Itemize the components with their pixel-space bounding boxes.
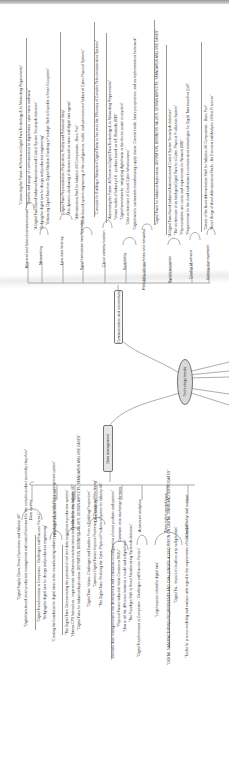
- leaf-citation[interactable]: "Digital Twin: Values, Challenges and En…: [88, 527, 92, 607]
- leaf-citation[interactable]: "Requirements for the cloud and network …: [187, 60, 191, 235]
- leaf-citation[interactable]: "Digital Transformation in Companies - C…: [138, 547, 142, 657]
- leaf-connector: [201, 42, 202, 232]
- leaf-citation[interactable]: "A Digital Twin Based Industrial Automat…: [35, 80, 39, 230]
- branch-data-management[interactable]: Data management: [103, 425, 113, 472]
- leaf-citation[interactable]: "Automating the Future: A Review on Digi…: [109, 50, 113, 220]
- category-quality-of-service[interactable]: Quality of service: [189, 244, 193, 279]
- leaf-citation[interactable]: "DIGITAL MANUFACTURING REQUIREMENTS AND …: [168, 555, 172, 665]
- category-data-quality[interactable]: Data quality: [29, 495, 33, 520]
- leaf-citation[interactable]: "Physical Twin to Industrial Value Creat…: [118, 552, 122, 627]
- leaf-connector: [166, 45, 167, 235]
- leaf-citation[interactable]: "Digital Twins for Industrial Applicatio…: [156, 45, 160, 225]
- leaf-citation[interactable]: "The Paradigm Shift in Smart Manufacturi…: [130, 552, 134, 622]
- category-reliability[interactable]: Reliability of machines and networks: [142, 235, 146, 290]
- leaf-citation[interactable]: "Connecting the Future: A Review on Digi…: [20, 40, 24, 205]
- leaf-citation[interactable]: "Bridging the digital turn for design an…: [41, 85, 45, 230]
- leaf-citation[interactable]: "Benefits and usage of communication for…: [28, 60, 32, 205]
- category-low-data-latency[interactable]: Low data latency: [60, 225, 64, 265]
- category-scalability[interactable]: Scalability: [123, 250, 127, 270]
- leaf-citation[interactable]: "Digital Transformation in Companies - C…: [38, 522, 42, 622]
- leaf-citation[interactable]: "Digital Tw... Impact of cloud security …: [175, 548, 179, 603]
- leaf-connector: [35, 535, 36, 630]
- category-identity-management[interactable]: Identity management: [206, 240, 210, 280]
- leaf-connector: [106, 33, 107, 223]
- branch-label: Data management: [106, 434, 110, 464]
- leaf-citation[interactable]: "Digital twin-based smart production man…: [25, 522, 29, 627]
- branch-communication-connectivity[interactable]: Communication and connectivity: [114, 290, 123, 344]
- leaf-citation[interactable]: "Representative use cases and requiremen…: [181, 85, 185, 235]
- leaf-citation[interactable]: "Digital Supply Chain, Smart Operations …: [18, 520, 22, 600]
- category-common-data-exchange[interactable]: Common data exchange formats: [118, 497, 122, 542]
- leaf-citation[interactable]: "Digital twin for sustainable manufactur…: [134, 55, 138, 230]
- leaf-citation[interactable]: "A bi-dynamic shadowing of distance-base…: [68, 90, 72, 215]
- leaf-citation[interactable]: "Details of the Asset Administration She…: [205, 70, 209, 230]
- root-node[interactable]: Technology trends: [177, 359, 193, 405]
- leaf-citation[interactable]: "Model-based system engineering of the c…: [82, 40, 86, 225]
- leaf-citation[interactable]: "Virtual models of Industry 4.0 - produc…: [115, 100, 119, 220]
- leaf-citation[interactable]: "Human-CPS Interaction - requirements an…: [72, 537, 76, 637]
- leaf-citation[interactable]: "Administration Shell for Industrie 4.0 …: [76, 60, 80, 220]
- leaf-citation[interactable]: "Digital Twin Representation, Replicatio…: [62, 105, 66, 215]
- leaf-citation[interactable]: "Dynamic Digital Twin to Improve Resilie…: [94, 527, 98, 587]
- leaf-citation[interactable]: "Asset Usage of Asset Administration She…: [211, 75, 215, 230]
- leaf-citation[interactable]: "Digital Twins for Industrial Applicatio…: [78, 535, 82, 630]
- leaf-citation[interactable]: "Semantic data management for the develo…: [112, 550, 116, 660]
- leaf-citation[interactable]: "The architecture of an Intelligent Digi…: [175, 80, 179, 235]
- leaf-citation[interactable]: "Enhancing Digital Twin from Digital Sha…: [47, 40, 51, 225]
- leaf-citation[interactable]: "The Digital Twin: Demonstrating the pot…: [66, 540, 70, 635]
- leaf-citation[interactable]: "Toolkit for process modeling and analys…: [186, 548, 190, 658]
- category-synchronization[interactable]: Synchronization: [168, 248, 172, 283]
- leaf-citation[interactable]: "How to tell the difference between a mo…: [124, 552, 128, 632]
- leaf-citation[interactable]: "Concepts for Building a Network of Digi…: [96, 35, 100, 215]
- category-bilateral-communication[interactable]: Bilateral and lateral communication: [25, 208, 29, 268]
- leaf-citation[interactable]: "Creating the foundation for digital twi…: [53, 542, 57, 642]
- category-advanced-analytics[interactable]: Advanced analytics: [138, 497, 142, 532]
- leaf-citation[interactable]: "Digital twin networks: integrating digi…: [121, 60, 125, 220]
- category-synchronization-management[interactable]: Synchronization management: [80, 230, 84, 270]
- branch-label: Communication and connectivity: [117, 291, 121, 343]
- leaf-citation[interactable]: "Data architecture of Critical Cyber Inf…: [127, 80, 131, 225]
- leaf-citation[interactable]: "Bridging the digital turn for design an…: [44, 540, 48, 620]
- leaf-citation[interactable]: "The Digital Twin: Realizing the Cyber-P…: [100, 527, 104, 607]
- leaf-citation[interactable]: "A Digital Twin Based Industrial Automat…: [169, 72, 173, 237]
- root-label: Technology trends: [183, 367, 187, 396]
- category-cloud-communication[interactable]: Cloud communication: [102, 232, 106, 267]
- category-networking[interactable]: Networking: [39, 240, 43, 265]
- leaf-citation[interactable]: "Legal aspects related to digital twin": [156, 547, 160, 617]
- leaf-connector: [62, 545, 63, 635]
